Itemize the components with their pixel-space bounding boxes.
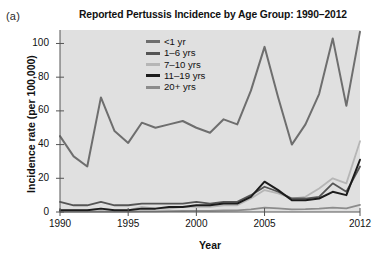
- x-tick-label: 1995: [108, 218, 148, 229]
- y-tick-label: 80: [19, 71, 49, 82]
- legend-label: 7–10 yrs: [164, 60, 201, 70]
- chart-legend: <1 yr1–6 yrs7–10 yrs11–19 yrs20+ yrs: [146, 36, 205, 93]
- legend-swatch-icon: [146, 52, 160, 55]
- y-tick-label: 0: [19, 206, 49, 217]
- y-tick-label: 20: [19, 172, 49, 183]
- legend-label: 1–6 yrs: [164, 48, 195, 58]
- x-tick-label: 1990: [40, 218, 80, 229]
- legend-label: <1 yr: [164, 37, 186, 47]
- legend-item: 11–19 yrs: [146, 70, 205, 81]
- y-tick-label: 60: [19, 104, 49, 115]
- figure-panel: (a) Reported Pertussis Incidence by Age …: [0, 0, 383, 260]
- legend-swatch-icon: [146, 86, 160, 89]
- legend-swatch-icon: [146, 40, 160, 43]
- legend-swatch-icon: [146, 63, 160, 66]
- legend-item: 1–6 yrs: [146, 47, 205, 58]
- y-tick-label: 40: [19, 138, 49, 149]
- legend-item: 7–10 yrs: [146, 59, 205, 70]
- x-tick-label: 2012: [340, 218, 380, 229]
- legend-swatch-icon: [146, 74, 160, 77]
- x-tick-label: 2005: [245, 218, 285, 229]
- legend-label: 20+ yrs: [164, 82, 196, 92]
- plot-background: [60, 30, 360, 212]
- y-tick-label: 100: [19, 37, 49, 48]
- legend-item: <1 yr: [146, 36, 205, 47]
- x-tick-label: 2000: [176, 218, 216, 229]
- legend-item: 20+ yrs: [146, 82, 205, 93]
- legend-label: 11–19 yrs: [164, 71, 205, 81]
